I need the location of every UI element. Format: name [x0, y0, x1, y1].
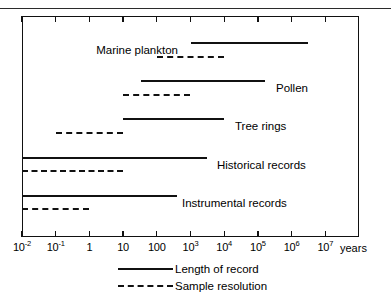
- bar-solid-2: [123, 118, 224, 120]
- x-axis-tick-4: [156, 16, 157, 22]
- x-axis-label-4: 100: [148, 241, 166, 254]
- legend-label-0: Length of record: [175, 262, 259, 276]
- row-label-3: Historical records: [217, 159, 306, 172]
- x-axis-tick-8: [291, 16, 292, 22]
- x-axis-tick-5: [190, 16, 191, 22]
- x-axis-tick-3: [122, 16, 123, 22]
- x-axis-label-2: 1: [86, 241, 92, 254]
- bar-solid-4: [22, 195, 177, 197]
- x-axis-label-0: 10-2: [13, 241, 31, 254]
- x-axis-label-9: 107: [317, 241, 333, 254]
- legend-swatch-solid-icon: [118, 268, 173, 270]
- row-label-1: Pollen: [276, 82, 308, 95]
- bar-dashed-3: [22, 170, 123, 172]
- x-axis-tick-3: [122, 231, 123, 237]
- x-axis-tick-2: [89, 231, 90, 237]
- bar-dashed-1: [123, 94, 190, 96]
- bar-dashed-4: [22, 208, 89, 210]
- row-label-2: Tree rings: [235, 120, 286, 133]
- x-axis-label-7: 105: [250, 241, 266, 254]
- x-axis-label-3: 10: [117, 241, 129, 254]
- x-axis-tick-7: [257, 231, 258, 237]
- x-axis-tick-9: [325, 231, 326, 237]
- x-axis-tick-5: [190, 231, 191, 237]
- x-axis-tick-2: [89, 16, 90, 22]
- x-axis-label-6: 104: [216, 241, 232, 254]
- x-axis-tick-7: [257, 16, 258, 22]
- legend-swatch-dashed-icon: [118, 285, 173, 287]
- x-axis-tick-1: [55, 231, 56, 237]
- row-label-0: Marine plankton: [96, 44, 178, 57]
- x-axis-label-1: 10-1: [47, 241, 65, 254]
- top-divider-rule: [0, 8, 391, 9]
- row-label-4: Instrumental records: [182, 197, 287, 210]
- x-axis-tick-6: [224, 16, 225, 22]
- x-axis-tick-4: [156, 231, 157, 237]
- bar-solid-0: [191, 42, 308, 44]
- legend: Length of recordSample resolution: [0, 262, 391, 302]
- x-axis-tick-0: [21, 16, 22, 22]
- bar-solid-1: [141, 80, 264, 82]
- bar-solid-3: [22, 157, 207, 159]
- x-axis-unit-label: years: [340, 242, 367, 255]
- x-axis-label-8: 106: [284, 241, 300, 254]
- legend-label-1: Sample resolution: [175, 279, 267, 293]
- x-axis-tick-0: [21, 231, 22, 237]
- bar-dashed-2: [56, 132, 123, 134]
- x-axis-label-5: 103: [183, 241, 199, 254]
- x-axis-tick-6: [224, 231, 225, 237]
- x-axis-tick-9: [325, 16, 326, 22]
- figure-root: 10-210-1110100103104105106107 years Mari…: [0, 0, 391, 305]
- x-axis-tick-8: [291, 231, 292, 237]
- x-axis-tick-1: [55, 16, 56, 22]
